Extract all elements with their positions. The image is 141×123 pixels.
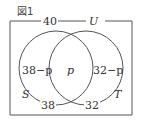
universe-count: 40 bbox=[43, 15, 57, 28]
region-s-only: 38−p bbox=[22, 64, 52, 77]
figure-caption: 図1 bbox=[17, 6, 33, 17]
set-t-label: T bbox=[114, 88, 123, 101]
set-t-total: 32 bbox=[85, 99, 99, 112]
region-intersection: p bbox=[67, 64, 74, 77]
set-s-label: S bbox=[22, 88, 30, 101]
set-s-total: 38 bbox=[41, 99, 55, 112]
venn-diagram: 図1 40 U 38−p p 32−p S T 38 32 bbox=[0, 0, 141, 123]
universe-label: U bbox=[89, 15, 99, 28]
region-t-only: 32−p bbox=[93, 64, 123, 77]
